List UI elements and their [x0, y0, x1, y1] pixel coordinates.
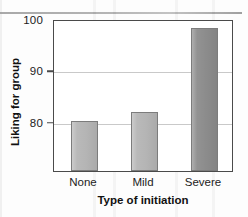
- bar-none: [71, 121, 98, 171]
- plot-area: [53, 20, 233, 172]
- y-axis-title: Liking for group: [9, 37, 21, 167]
- y-tick-label: 80: [30, 117, 43, 129]
- x-axis-title: Type of initiation: [53, 194, 233, 206]
- y-tick-label: 100: [23, 14, 43, 26]
- x-tick-label: None: [69, 176, 97, 188]
- bar-chart-figure: 1009080 Liking for group NoneMildSevere …: [0, 0, 248, 217]
- bar-severe: [191, 28, 218, 171]
- x-tick-label: Mild: [132, 176, 153, 188]
- bar-mild: [131, 112, 158, 171]
- y-tick-label: 90: [30, 65, 43, 77]
- x-tick-label: Severe: [185, 176, 221, 188]
- bar-sheen: [132, 113, 157, 170]
- bar-sheen: [72, 122, 97, 170]
- y-axis: 1009080 Liking for group: [0, 0, 53, 217]
- bar-sheen: [192, 29, 217, 170]
